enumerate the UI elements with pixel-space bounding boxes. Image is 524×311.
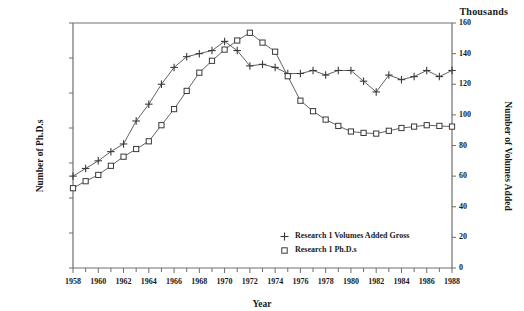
legend-item[interactable]: Research 1 Volumes Added Gross	[278, 229, 409, 243]
legend-item-label: Research 1 Volumes Added Gross	[295, 232, 409, 240]
chart-container: Thousands Number of Ph.D.s Number of Vol…	[0, 0, 524, 311]
plus-marker-icon	[278, 230, 291, 243]
legend-item-label: Research 1 Ph.D.s	[295, 246, 357, 254]
plot-area	[0, 0, 524, 311]
legend-item[interactable]: Research 1 Ph.D.s	[278, 243, 409, 257]
chart-legend: Research 1 Volumes Added GrossResearch 1…	[278, 229, 409, 257]
square-marker-icon	[278, 244, 291, 257]
